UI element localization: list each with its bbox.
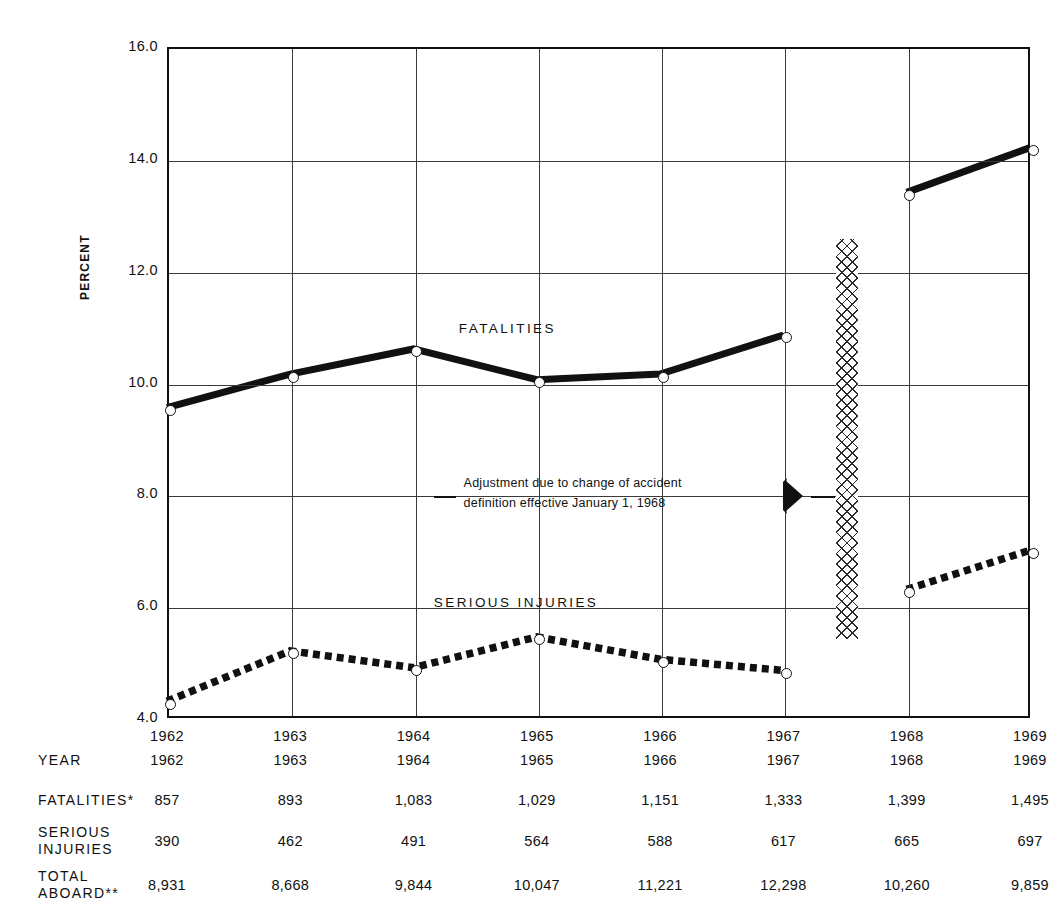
- y-axis-tick-labels: 16.014.012.010.08.06.04.0: [106, 0, 158, 700]
- adjustment-note-leader-left: [434, 496, 456, 498]
- data-point-serious-injuries-1969: [1028, 548, 1039, 559]
- table-cell: 1966: [643, 752, 676, 768]
- x-tick-1967: 1967: [766, 728, 800, 744]
- table-cell: 9,859: [1011, 877, 1049, 893]
- series-line-fatalities: [906, 148, 1029, 193]
- y-tick-10-0: 10.0: [110, 374, 158, 390]
- adjustment-arrow-icon: [781, 476, 811, 520]
- plot-area: FATALITIESSERIOUS INJURIESAdjustment due…: [167, 47, 1030, 718]
- adjustment-note-line1: Adjustment due to change of accident: [464, 474, 682, 493]
- table-cell: 1964: [397, 752, 430, 768]
- data-point-fatalities-1966: [658, 372, 669, 383]
- series-canvas: [167, 47, 1030, 718]
- table-cell: 588: [648, 833, 673, 849]
- data-point-fatalities-1969: [1028, 145, 1039, 156]
- table-cell: 1,029: [518, 792, 556, 808]
- gridline-vertical: [785, 49, 786, 716]
- y-axis-title: PERCENT: [78, 180, 92, 300]
- y-tick-14-0: 14.0: [110, 150, 158, 166]
- table-row-label: YEAR: [38, 752, 82, 769]
- table-cell: 1968: [890, 752, 923, 768]
- table-cell: 1,083: [395, 792, 433, 808]
- y-tick-12-0: 12.0: [110, 262, 158, 278]
- data-point-fatalities-1968: [904, 190, 915, 201]
- adjustment-note: Adjustment due to change of accidentdefi…: [464, 474, 682, 513]
- table-row-label: FATALITIES*: [38, 792, 135, 809]
- table-cell: 1963: [274, 752, 307, 768]
- y-tick-16-0: 16.0: [110, 38, 158, 54]
- table-cell: 11,221: [638, 877, 683, 893]
- series-line-serious-injuries: [167, 637, 783, 701]
- gridline-horizontal: [169, 608, 1028, 609]
- data-point-fatalities-1963: [288, 372, 299, 383]
- table-cell: 9,844: [395, 877, 433, 893]
- x-tick-1963: 1963: [273, 728, 307, 744]
- data-point-fatalities-1962: [165, 405, 176, 416]
- gridline-vertical: [416, 49, 417, 716]
- table-row-label-line: TOTAL: [38, 868, 119, 885]
- table-row-label-line: FATALITIES*: [38, 792, 135, 809]
- table-cell: 1967: [767, 752, 800, 768]
- table-row-label: TOTALABOARD**: [38, 868, 119, 902]
- data-point-serious-injuries-1966: [658, 657, 669, 668]
- gridline-vertical: [909, 49, 910, 716]
- table-cell: 1962: [150, 752, 183, 768]
- series-label-serious-injuries: SERIOUS INJURIES: [434, 595, 598, 610]
- table-row-label-line: YEAR: [38, 752, 82, 769]
- x-axis-tick-labels: 19621963196419651966196719681969: [0, 728, 1058, 752]
- table-cell: 1969: [1013, 752, 1046, 768]
- y-tick-6-0: 6.0: [110, 597, 158, 613]
- x-tick-1966: 1966: [643, 728, 677, 744]
- adjustment-note-line2: definition effective January 1, 1968: [464, 494, 682, 513]
- table-row-label: SERIOUSINJURIES: [38, 824, 113, 858]
- table-cell: 1,399: [888, 792, 926, 808]
- table-cell: 491: [401, 833, 426, 849]
- table-cell: 1,333: [765, 792, 803, 808]
- gridline-horizontal: [169, 385, 1028, 386]
- table-cell: 617: [771, 833, 796, 849]
- series-line-fatalities: [167, 335, 783, 408]
- table-cell: 1,151: [641, 792, 679, 808]
- data-point-serious-injuries-1967: [781, 668, 792, 679]
- data-point-serious-injuries-1962: [165, 699, 176, 710]
- gridline-horizontal: [169, 161, 1028, 162]
- table-cell: 1965: [520, 752, 553, 768]
- adjustment-arrow-leader: [811, 496, 835, 498]
- table-row-label-line: ABOARD**: [38, 885, 119, 902]
- table-cell: 697: [1017, 833, 1042, 849]
- table-cell: 665: [894, 833, 919, 849]
- table-cell: 1,495: [1011, 792, 1049, 808]
- table-row-label-line: SERIOUS: [38, 824, 113, 841]
- x-tick-1969: 1969: [1013, 728, 1047, 744]
- table-cell: 462: [278, 833, 303, 849]
- table-cell: 857: [154, 792, 179, 808]
- series-line-serious-injuries: [906, 550, 1029, 589]
- table-cell: 10,047: [514, 877, 560, 893]
- table-cell: 10,260: [884, 877, 930, 893]
- table-cell: 564: [524, 833, 549, 849]
- table-cell: 893: [278, 792, 303, 808]
- table-cell: 8,931: [148, 877, 186, 893]
- series-label-fatalities: FATALITIES: [459, 321, 556, 336]
- table-row-label-line: INJURIES: [38, 841, 113, 858]
- y-tick-8-0: 8.0: [110, 485, 158, 501]
- x-tick-1965: 1965: [520, 728, 554, 744]
- x-tick-1964: 1964: [397, 728, 431, 744]
- gridline-horizontal: [169, 273, 1028, 274]
- chart-figure: PERCENT 16.014.012.010.08.06.04.0 FATALI…: [0, 0, 1058, 918]
- adjustment-break-band: [836, 239, 858, 639]
- y-tick-4-0: 4.0: [110, 709, 158, 725]
- x-tick-1962: 1962: [150, 728, 184, 744]
- x-tick-1968: 1968: [890, 728, 924, 744]
- table-cell: 390: [154, 833, 179, 849]
- table-cell: 8,668: [271, 877, 309, 893]
- table-cell: 12,298: [760, 877, 806, 893]
